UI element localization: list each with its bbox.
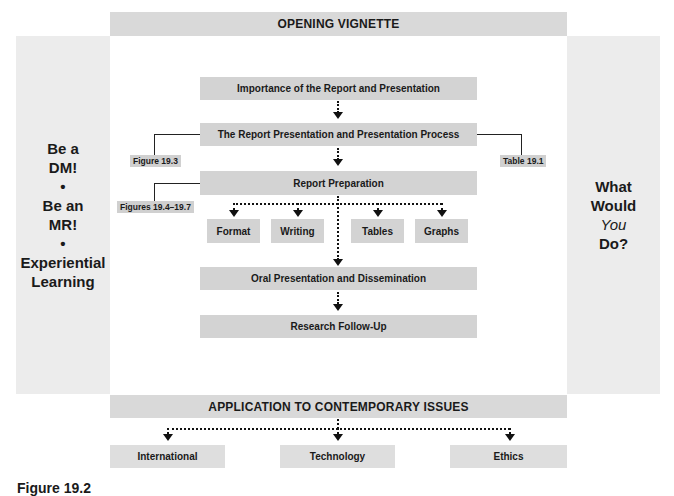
step-research-follow-up: Research Follow-Up: [200, 315, 477, 338]
application-banner-label: APPLICATION TO CONTEMPORARY ISSUES: [208, 400, 468, 414]
arrow-down-icon: [437, 210, 447, 217]
substep-tables-label: Tables: [362, 226, 393, 237]
bullet: •: [20, 177, 105, 196]
reference-line: [477, 134, 522, 135]
substep-format: Format: [207, 219, 260, 243]
figure-caption: Figure 19.2: [17, 480, 91, 496]
substep-format-label: Format: [217, 226, 251, 237]
step-report-preparation-label: Report Preparation: [293, 178, 384, 189]
do-text: Do?: [591, 234, 637, 253]
left-panel: Be a DM! • Be an MR! • Experiential Lear…: [16, 36, 110, 394]
step-report-process-label: The Report Presentation and Presentation…: [218, 129, 460, 140]
arrow-down-icon: [333, 259, 343, 266]
step-importance-label: Importance of the Report and Presentatio…: [237, 83, 440, 94]
mr-text: MR!: [20, 215, 105, 234]
right-panel: What Would You Do?: [567, 36, 660, 394]
learning-text: Learning: [20, 272, 105, 291]
step-importance: Importance of the Report and Presentatio…: [200, 77, 477, 100]
issue-international: International: [110, 445, 225, 468]
right-panel-text: What Would You Do?: [591, 177, 637, 253]
figures-19-4-19-7-tag: Figures 19.4–19.7: [117, 201, 194, 213]
arrow-down-icon: [505, 434, 515, 441]
arrow-down-icon: [293, 210, 303, 217]
issue-international-label: International: [137, 451, 197, 462]
reference-line: [154, 183, 200, 184]
substep-graphs-label: Graphs: [424, 226, 459, 237]
step-research-follow-up-label: Research Follow-Up: [290, 321, 386, 332]
arrow-down-icon: [373, 210, 383, 217]
left-panel-text: Be a DM! • Be an MR! • Experiential Lear…: [20, 139, 105, 291]
be-an-text: Be an: [20, 196, 105, 215]
connector-dotted-horizontal: [233, 203, 442, 205]
reference-line: [154, 183, 155, 202]
arrow-down-icon: [163, 434, 173, 441]
reference-line: [521, 134, 522, 156]
arrow-down-icon: [333, 434, 343, 441]
reference-line: [154, 134, 200, 135]
step-report-preparation: Report Preparation: [200, 171, 477, 195]
reference-line: [154, 134, 155, 156]
substep-tables: Tables: [351, 219, 404, 243]
substep-writing: Writing: [271, 219, 324, 243]
bullet: •: [20, 234, 105, 253]
substep-graphs: Graphs: [415, 219, 468, 243]
connector-dotted: [441, 203, 443, 210]
step-oral-presentation: Oral Presentation and Dissemination: [200, 267, 477, 290]
issue-ethics-label: Ethics: [493, 451, 523, 462]
opening-vignette-label: OPENING VIGNETTE: [278, 17, 400, 31]
substep-writing-label: Writing: [280, 226, 314, 237]
issue-technology: Technology: [280, 445, 395, 468]
opening-vignette-banner: OPENING VIGNETTE: [110, 12, 567, 36]
arrow-down-icon: [333, 304, 343, 311]
what-text: What: [591, 177, 637, 196]
you-text: You: [591, 215, 637, 234]
step-oral-presentation-label: Oral Presentation and Dissemination: [251, 273, 426, 284]
connector-dotted: [337, 292, 339, 304]
table-19-1-tag: Table 19.1: [500, 155, 546, 167]
arrow-down-icon: [333, 159, 343, 166]
issue-technology-label: Technology: [310, 451, 365, 462]
experiential-text: Experiential: [20, 253, 105, 272]
connector-dotted: [233, 203, 235, 210]
issue-ethics: Ethics: [450, 445, 567, 468]
connector-dotted: [297, 203, 299, 210]
would-text: Would: [591, 196, 637, 215]
figure-19-3-tag: Figure 19.3: [130, 155, 181, 167]
connector-dotted: [377, 203, 379, 210]
dm-text: DM!: [20, 158, 105, 177]
arrow-down-icon: [229, 210, 239, 217]
application-banner: APPLICATION TO CONTEMPORARY ISSUES: [110, 395, 567, 418]
step-report-process: The Report Presentation and Presentation…: [200, 123, 477, 146]
connector-dotted: [337, 196, 339, 260]
be-a-text: Be a: [20, 139, 105, 158]
arrow-down-icon: [333, 112, 343, 119]
